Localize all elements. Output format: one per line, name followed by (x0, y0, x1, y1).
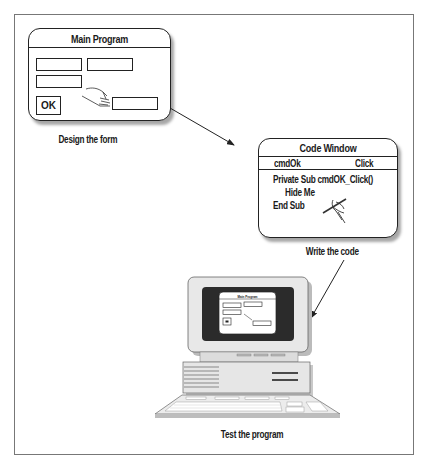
object-label: cmdOk (274, 158, 301, 169)
main-program-window: Main Program OK (28, 28, 171, 121)
title-divider (29, 47, 170, 48)
caption-test: Test the program (221, 429, 283, 440)
code-line-1: Private Sub cmdOK_Click() (273, 174, 373, 185)
main-program-title: Main Program (42, 33, 158, 45)
code-line-2: Hide Me (285, 187, 315, 198)
code-window: Code Window cmdOk Click Private Sub cmdO… (258, 138, 398, 238)
event-label: Click (355, 158, 373, 169)
ok-button: OK (36, 96, 61, 115)
text-box-4 (112, 97, 158, 110)
text-box-1 (36, 58, 82, 71)
text-box-3 (36, 75, 82, 88)
caption-design: Design the form (58, 134, 117, 145)
title-divider (259, 156, 397, 157)
code-window-title: Code Window (271, 142, 384, 154)
header-divider (259, 169, 397, 170)
text-box-2 (87, 58, 133, 71)
caption-code: Write the code (306, 246, 359, 257)
code-line-3: End Sub (273, 200, 305, 211)
